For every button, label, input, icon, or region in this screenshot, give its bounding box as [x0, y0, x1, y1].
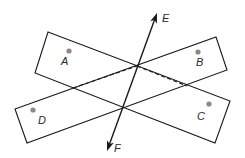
point-b-dot	[195, 49, 200, 54]
intersecting-planes-diagram: A B C D E F	[0, 0, 245, 158]
point-c-label: C	[197, 110, 205, 122]
point-a-dot	[66, 48, 71, 53]
line-end-f-label: F	[114, 142, 122, 154]
point-c-dot	[206, 101, 211, 106]
point-a-label: A	[60, 55, 68, 67]
point-b-label: B	[196, 56, 203, 68]
hidden-edge-right	[137, 66, 187, 86]
intersection-line-ef	[108, 17, 155, 147]
point-d-dot	[30, 107, 35, 112]
plane-db	[15, 37, 227, 143]
point-d-label: D	[38, 114, 46, 126]
line-end-e-label: E	[162, 12, 170, 24]
plane-ac	[35, 32, 230, 143]
